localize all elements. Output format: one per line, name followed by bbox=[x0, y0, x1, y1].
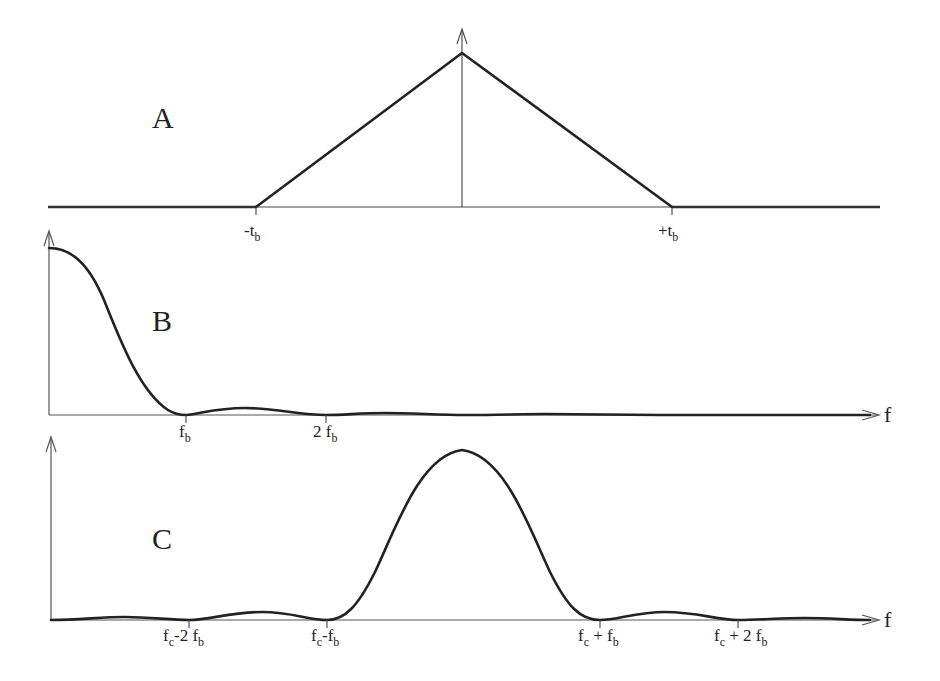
tick-label-minus-tb: -tb bbox=[244, 221, 260, 244]
tick-label-fc-plus-fb: fc + fb bbox=[578, 626, 619, 649]
triangle-pulse-curve bbox=[256, 53, 672, 207]
tick-label-fc-plus-2fb: fc + 2 fb bbox=[714, 626, 768, 649]
frequency-axis-label: f bbox=[884, 607, 892, 632]
diagram-canvas: A -tb +tb B f fb 2 fb C f fc-2 fb fc-fb … bbox=[0, 0, 940, 681]
frequency-axis-label: f bbox=[884, 402, 892, 427]
panel-a: A -tb +tb bbox=[48, 29, 880, 244]
panel-c: C f fc-2 fb fc-fb fc + fb fc + 2 fb bbox=[46, 437, 892, 649]
tick-label-2fb: 2 fb bbox=[313, 422, 337, 445]
panel-label-a: A bbox=[152, 101, 174, 134]
baseband-spectrum-curve bbox=[49, 248, 870, 415]
tick-label-plus-tb: +tb bbox=[658, 221, 678, 244]
modulated-spectrum-curve bbox=[51, 450, 870, 620]
tick-label-fb: fb bbox=[179, 422, 191, 445]
panel-label-c: C bbox=[152, 522, 172, 555]
tick-label-fc-minus-fb: fc-fb bbox=[311, 626, 339, 649]
panel-b: B f fb 2 fb bbox=[44, 231, 892, 445]
tick-label-fc-minus-2fb: fc-2 fb bbox=[163, 626, 204, 649]
panel-label-b: B bbox=[152, 304, 172, 337]
